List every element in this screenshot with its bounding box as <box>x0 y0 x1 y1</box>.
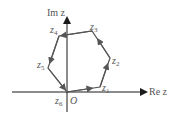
hexagon-path <box>48 31 110 92</box>
y-axis-label: Im z <box>47 8 65 18</box>
x-axis-label: Re z <box>149 87 167 97</box>
complex-plane-diagram <box>0 0 178 118</box>
vertex-label-z1: z1 <box>102 83 109 95</box>
vertex-label-z5: z5 <box>37 60 44 72</box>
vertex-label-z2: z2 <box>112 56 119 68</box>
vertex-label-z6: z6 <box>55 96 62 108</box>
vertex-label-z3: z3 <box>90 22 97 34</box>
origin-label: O <box>70 96 77 106</box>
vertex-label-z4: z4 <box>50 25 57 37</box>
